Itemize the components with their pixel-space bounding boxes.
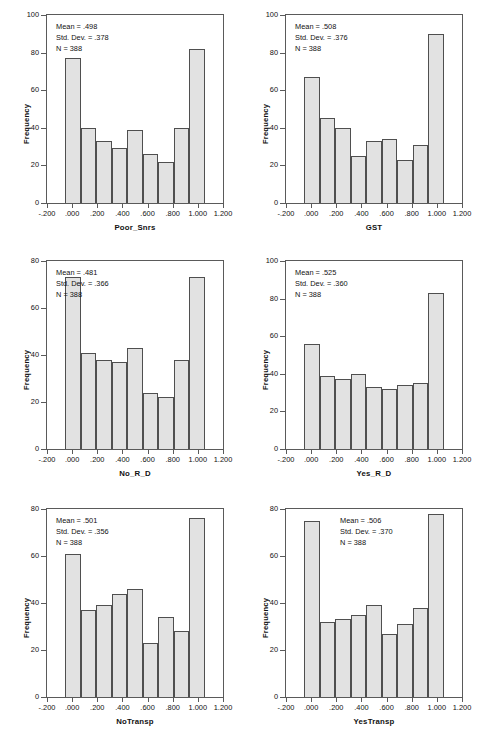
histogram-panel-notransp: Frequency020406080-.200.000.200.400.600.…	[0, 494, 238, 742]
x-axis-tick	[47, 449, 48, 454]
x-axis-tick	[336, 203, 337, 208]
histogram-bar	[158, 162, 174, 203]
x-axis-tick	[311, 203, 312, 208]
x-axis-tick	[311, 697, 312, 702]
histogram-bar	[382, 139, 398, 203]
x-axis-title: GST	[285, 223, 463, 232]
x-axis-tick	[437, 697, 438, 702]
histogram-bar	[397, 624, 413, 697]
plot-frame: 020406080-.200.000.200.400.600.8001.0001…	[46, 260, 224, 450]
x-axis-tick-label: .000	[304, 210, 318, 217]
plot-frame: 020406080100-.200.000.200.400.600.8001.0…	[46, 14, 224, 204]
x-axis-tick-label: .000	[304, 456, 318, 463]
histogram-bar	[335, 619, 351, 697]
y-axis-title: Frequency	[22, 598, 31, 638]
x-axis-tick	[336, 449, 337, 454]
x-axis-title: YesTransp	[285, 717, 463, 726]
x-axis-tick-label: .000	[304, 704, 318, 711]
x-axis-tick	[198, 449, 199, 454]
x-axis-tick-label: 1.200	[214, 704, 233, 711]
y-axis-tick-label: 60	[31, 552, 39, 559]
histogram-bar	[143, 393, 159, 449]
y-axis-title: Frequency	[261, 350, 270, 390]
x-axis-tick-label: 1.200	[453, 210, 472, 217]
x-axis-tick	[148, 203, 149, 208]
x-axis-tick	[173, 203, 174, 208]
x-axis-tick	[437, 203, 438, 208]
y-axis-tick-label: 20	[270, 646, 278, 653]
x-axis-tick-label: .200	[90, 456, 104, 463]
x-axis-tick	[47, 203, 48, 208]
histogram-bar	[65, 554, 81, 697]
x-axis-tick	[387, 203, 388, 208]
y-axis-tick-label: 40	[270, 124, 278, 131]
histogram-panel-yes_r_d: Frequency020406080100-.200.000.200.400.6…	[239, 246, 477, 494]
histogram-bar	[428, 293, 444, 449]
x-axis-tick	[387, 697, 388, 702]
x-axis-tick	[361, 449, 362, 454]
histogram-bar	[143, 154, 159, 203]
x-axis-tick	[47, 697, 48, 702]
histogram-panel-yestransp: Frequency020406080-.200.000.200.400.600.…	[239, 494, 477, 742]
y-axis-tick-label: 80	[270, 505, 278, 512]
histogram-bar	[335, 128, 351, 203]
histogram-bar	[320, 118, 336, 203]
y-axis-tick-label: 40	[31, 599, 39, 606]
histogram-bar	[127, 130, 143, 203]
plot-frame: 020406080-.200.000.200.400.600.8001.0001…	[46, 508, 224, 698]
x-axis-tick	[412, 697, 413, 702]
x-axis-tick-label: .400	[354, 210, 368, 217]
y-axis-tick-label: 40	[31, 124, 39, 131]
histogram-bar	[112, 362, 128, 449]
x-axis-tick	[223, 697, 224, 702]
histogram-bar	[366, 605, 382, 697]
x-axis-tick	[97, 449, 98, 454]
histogram-bar	[143, 643, 159, 697]
histogram-panel-poor_snrs: Frequency020406080100-.200.000.200.400.6…	[0, 0, 238, 248]
x-axis-tick-label: .400	[115, 210, 129, 217]
histogram-bar	[382, 634, 398, 697]
histogram-bar	[413, 608, 429, 697]
x-axis-tick-label: .800	[405, 704, 419, 711]
y-axis-tick-label: 20	[31, 646, 39, 653]
x-axis-tick	[361, 697, 362, 702]
x-axis-tick-label: -.200	[39, 704, 56, 711]
y-axis-tick-label: 100	[266, 11, 278, 18]
histogram-bar	[158, 397, 174, 449]
y-axis-tick-label: 60	[270, 552, 278, 559]
histogram-bar	[96, 141, 112, 203]
y-axis-tick-label: 80	[31, 505, 39, 512]
histogram-bar	[351, 374, 367, 449]
x-axis-tick-label: 1.200	[214, 456, 233, 463]
histogram-bar	[413, 383, 429, 449]
y-axis-tick-label: 100	[27, 11, 39, 18]
y-axis-tick-label: 80	[31, 257, 39, 264]
histogram-bar	[158, 617, 174, 697]
x-axis-tick	[437, 449, 438, 454]
x-axis-tick	[223, 449, 224, 454]
x-axis-tick-label: -.200	[278, 704, 295, 711]
histogram-bar	[304, 77, 320, 203]
y-axis-tick-label: 0	[274, 199, 278, 206]
x-axis-tick-label: .200	[329, 704, 343, 711]
y-axis-tick-label: 60	[31, 86, 39, 93]
x-axis-tick-label: 1.000	[189, 456, 208, 463]
histogram-figure-sheet: Frequency020406080100-.200.000.200.400.6…	[0, 0, 477, 745]
x-axis-tick	[122, 449, 123, 454]
histogram-bar	[397, 385, 413, 449]
y-axis-tick-label: 60	[270, 332, 278, 339]
x-axis-tick	[198, 697, 199, 702]
histogram-bar	[65, 277, 81, 449]
histogram-bar	[174, 631, 190, 697]
x-axis-tick	[223, 203, 224, 208]
histogram-bars	[286, 509, 462, 697]
histogram-bar	[174, 360, 190, 449]
x-axis-tick-label: 1.000	[189, 210, 208, 217]
histogram-bar	[189, 49, 205, 203]
histogram-bar	[189, 518, 205, 697]
x-axis-tick	[148, 697, 149, 702]
x-axis-tick-label: 1.000	[428, 704, 447, 711]
histogram-bar	[189, 277, 205, 449]
x-axis-tick-label: .400	[115, 456, 129, 463]
x-axis-tick-label: .600	[379, 210, 393, 217]
